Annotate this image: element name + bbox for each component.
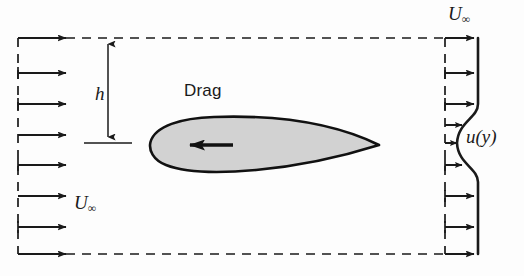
inlet-velocity-profile <box>18 38 66 254</box>
streamlined-body <box>150 117 379 172</box>
flow-past-body-diagram: U∞ U∞ u(y) h Drag <box>0 0 524 276</box>
u-infinity-bottom-subscript: ∞ <box>88 202 96 215</box>
label-height-h: h <box>95 84 105 103</box>
label-u-infinity-bottom: U∞ <box>74 193 96 214</box>
label-u-of-y: u(y) <box>466 127 497 146</box>
u-infinity-top-symbol: U <box>448 3 462 24</box>
label-u-infinity-top: U∞ <box>448 4 470 25</box>
label-drag: Drag <box>184 82 222 99</box>
u-infinity-bottom-symbol: U <box>74 192 88 213</box>
body-outline <box>150 117 379 172</box>
diagram-canvas <box>0 0 524 276</box>
u-infinity-top-subscript: ∞ <box>462 13 470 26</box>
height-dimension-h <box>84 44 132 143</box>
